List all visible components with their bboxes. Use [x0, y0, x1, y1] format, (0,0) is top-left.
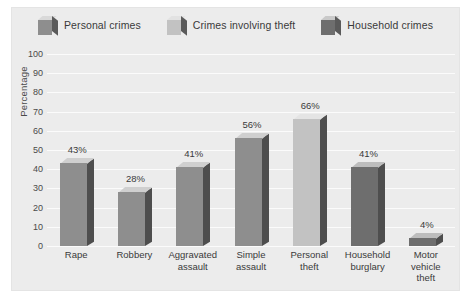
y-axis-tick-label: 100: [7, 50, 43, 59]
bar-front-face: [118, 192, 145, 246]
x-axis-label: Robbery: [105, 249, 163, 261]
bar-chart: Personal crimes Crimes involving theft H…: [0, 0, 471, 305]
bar-side-face: [203, 163, 210, 246]
legend-item-crimes-involving-theft: Crimes involving theft: [167, 16, 296, 35]
plot-area: 43%28%41%56%66%41%4%: [47, 54, 455, 246]
legend-label: Household crimes: [347, 19, 433, 31]
x-axis-label-line: Aggravated: [164, 249, 222, 261]
bar-rape[interactable]: 43%: [60, 163, 87, 246]
bar-value-label: 56%: [239, 119, 266, 130]
bar-front-face: [60, 163, 87, 246]
bar-value-label: 28%: [122, 173, 149, 184]
x-axis-label-line: Household: [338, 249, 396, 261]
bar-motor-vehicle-theft[interactable]: 4%: [409, 238, 436, 246]
y-axis-tick-label: 0: [7, 242, 43, 251]
cube-front-face: [38, 20, 52, 35]
bar-front-face: [176, 167, 203, 246]
legend-item-household-crimes: Household crimes: [321, 16, 433, 35]
bar-front-face: [351, 167, 378, 246]
y-axis-tick-label: 40: [7, 165, 43, 174]
bar-side-face: [320, 115, 327, 246]
x-axis-label-line: theft: [397, 272, 455, 284]
y-axis-tick-label: 60: [7, 126, 43, 135]
legend-item-personal-crimes: Personal crimes: [38, 16, 141, 35]
x-axis-label-line: assault: [164, 261, 222, 273]
x-axis-label-line: vehicle: [397, 261, 455, 273]
gridline: [47, 246, 455, 247]
bar-household-burglary[interactable]: 41%: [351, 167, 378, 246]
legend-label: Crimes involving theft: [193, 19, 296, 31]
bar-simple-assault[interactable]: 56%: [235, 138, 262, 246]
x-axis-label-line: Motor: [397, 249, 455, 261]
x-axis-label-line: burglary: [338, 261, 396, 273]
x-axis-label-line: Simple: [222, 249, 280, 261]
bars-layer: 43%28%41%56%66%41%4%: [47, 54, 455, 246]
chart-legend: Personal crimes Crimes involving theft H…: [12, 8, 459, 42]
x-axis-label-line: assault: [222, 261, 280, 273]
bar-side-face: [145, 188, 152, 246]
x-axis-label: Personaltheft: [280, 249, 338, 272]
bar-front-face: [409, 238, 436, 246]
x-axis-label-line: Robbery: [105, 249, 163, 261]
x-axis-label: Simpleassault: [222, 249, 280, 272]
y-axis-tick-label: 10: [7, 222, 43, 231]
bar-value-label: 4%: [413, 219, 440, 230]
cube-side-face: [52, 16, 58, 36]
bar-value-label: 41%: [355, 148, 382, 159]
y-axis-tick-label: 30: [7, 184, 43, 193]
y-axis-tick-label: 80: [7, 88, 43, 97]
bar-side-face: [262, 134, 269, 246]
bar-personal-theft[interactable]: 66%: [293, 119, 320, 246]
x-axis-label: Rape: [47, 249, 105, 261]
cube-front-face: [167, 20, 181, 35]
cube-side-face: [181, 16, 187, 36]
y-axis-tick-label: 20: [7, 203, 43, 212]
bar-side-face: [87, 159, 94, 246]
bar-front-face: [235, 138, 262, 246]
bar-aggravated-assault[interactable]: 41%: [176, 167, 203, 246]
y-axis-ticks: 1009080706050403020100: [0, 54, 43, 246]
bar-value-label: 41%: [180, 148, 207, 159]
x-axis-label-line: Personal: [280, 249, 338, 261]
x-axis-label-line: theft: [280, 261, 338, 273]
x-axis-labels: RapeRobberyAggravatedassaultSimpleassaul…: [47, 249, 455, 291]
legend-swatch-cube-icon: [321, 16, 341, 35]
legend-swatch-cube-icon: [167, 16, 187, 35]
x-axis-label: Householdburglary: [338, 249, 396, 272]
y-axis-tick-label: 70: [7, 107, 43, 116]
cube-front-face: [321, 20, 335, 35]
bar-value-label: 43%: [64, 144, 91, 155]
legend-label: Personal crimes: [64, 19, 141, 31]
bar-front-face: [293, 119, 320, 246]
x-axis-label: Aggravatedassault: [164, 249, 222, 272]
y-axis-tick-label: 90: [7, 69, 43, 78]
bar-value-label: 66%: [297, 100, 324, 111]
bar-robbery[interactable]: 28%: [118, 192, 145, 246]
x-axis-label-line: Rape: [47, 249, 105, 261]
bar-side-face: [378, 163, 385, 246]
legend-swatch-cube-icon: [38, 16, 58, 35]
y-axis-tick-label: 50: [7, 146, 43, 155]
x-axis-label: Motorvehicletheft: [397, 249, 455, 284]
cube-side-face: [335, 16, 341, 36]
